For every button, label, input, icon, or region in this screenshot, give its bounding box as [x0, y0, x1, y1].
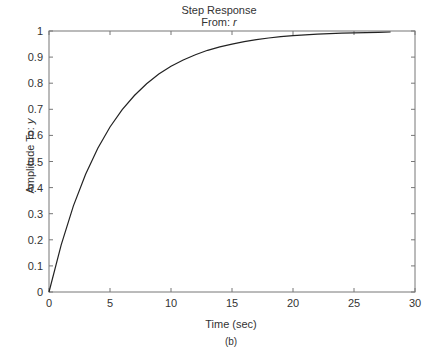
y-tick-label: 0 — [37, 286, 43, 298]
plot-area: 05101520253000.10.20.30.40.50.60.70.80.9… — [0, 0, 426, 354]
x-tick-label: 10 — [165, 297, 177, 309]
axes-box — [49, 31, 415, 292]
x-tick-label: 5 — [107, 297, 113, 309]
y-tick-label: 0.3 — [28, 208, 43, 220]
x-tick-label: 20 — [287, 297, 299, 309]
y-tick-label: 0.5 — [28, 156, 43, 168]
x-tick-label: 30 — [409, 297, 421, 309]
y-tick-label: 0.1 — [28, 260, 43, 272]
y-tick-label: 0.7 — [28, 103, 43, 115]
y-tick-label: 0.9 — [28, 51, 43, 63]
y-tick-label: 1 — [37, 25, 43, 37]
y-tick-label: 0.8 — [28, 77, 43, 89]
step-response-line — [49, 32, 391, 292]
x-tick-label: 25 — [348, 297, 360, 309]
y-tick-label: 0.4 — [28, 182, 43, 194]
x-tick-label: 0 — [46, 297, 52, 309]
y-tick-label: 0.2 — [28, 234, 43, 246]
y-tick-label: 0.6 — [28, 129, 43, 141]
x-tick-label: 15 — [226, 297, 238, 309]
